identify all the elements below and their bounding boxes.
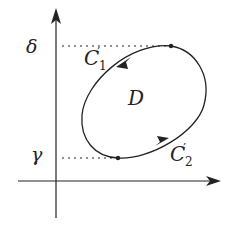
y-axis: [51, 8, 61, 218]
bottom-point: [116, 156, 120, 160]
top-point: [169, 44, 173, 48]
delta-label: δ: [26, 37, 37, 56]
gamma-label: γ: [31, 145, 42, 164]
c1-prime: ′: [97, 46, 100, 60]
c2-prime: ′: [183, 142, 186, 156]
curve-label-c1-prime: C′1: [84, 47, 107, 72]
region-label-d: D: [128, 88, 144, 108]
c2-subscript: 2: [185, 155, 193, 169]
x-axis: [18, 176, 221, 186]
c1-subscript: 1: [99, 59, 107, 73]
curve-label-c2-prime: C′2: [170, 143, 193, 168]
diagram-canvas: δ γ D C′1 C′2: [0, 0, 240, 231]
